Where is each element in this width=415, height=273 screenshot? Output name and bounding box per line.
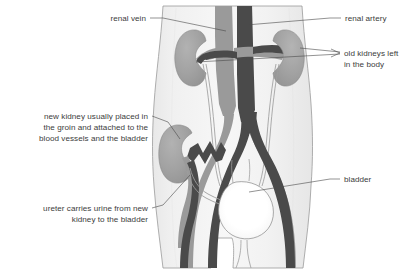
abdominal-aorta <box>237 4 255 122</box>
label-new-kidney: new kidney usually placed in the groin a… <box>39 112 148 143</box>
label-renal-artery-line-0: renal artery <box>345 14 387 23</box>
leader-old-kidney-arrow <box>331 49 340 57</box>
label-new-kidney-line-2: blood vessels and the bladder <box>39 134 148 143</box>
label-bladder: bladder <box>344 175 372 184</box>
label-new-kidney-line-0: new kidney usually placed in <box>44 112 148 121</box>
label-old-kidneys-line-0: old kidneys left <box>344 49 399 58</box>
label-old-kidneys-line-1: in the body <box>344 60 385 69</box>
kidney-transplant-diagram: renal vein renal artery old kidneys left… <box>0 0 415 273</box>
label-ureter-line-0: ureter carries urine from new <box>43 204 148 213</box>
label-new-kidney-line-1: the groin and attached to the <box>44 123 149 132</box>
label-renal-vein-line-0: renal vein <box>110 14 146 23</box>
label-bladder-line-0: bladder <box>344 175 372 184</box>
label-old-kidneys: old kidneys left in the body <box>344 49 399 69</box>
diagram-canvas: renal vein renal artery old kidneys left… <box>0 0 415 273</box>
label-ureter-line-1: kidney to the bladder <box>72 215 148 224</box>
label-renal-vein: renal vein <box>110 14 146 23</box>
label-ureter: ureter carries urine from new kidney to … <box>43 204 148 224</box>
label-renal-artery: renal artery <box>345 14 387 23</box>
